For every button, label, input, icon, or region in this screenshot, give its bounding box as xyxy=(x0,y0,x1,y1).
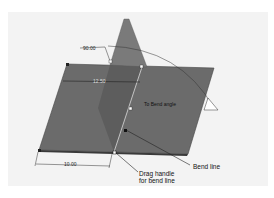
bottom-dimension-label[interactable]: 10.00 xyxy=(64,162,77,167)
drag-handle-callout-line2: for bend line xyxy=(139,177,175,184)
corner-handle-top-left[interactable] xyxy=(66,63,69,66)
bend-line-callout: Bend line xyxy=(193,163,220,170)
flange-upper xyxy=(110,19,147,67)
bend-line-marker[interactable] xyxy=(124,129,127,132)
mid-handle[interactable] xyxy=(129,107,132,110)
angle-arrow xyxy=(204,98,218,110)
inline-note-label: To Bend angle xyxy=(144,102,176,107)
offset-dimension-label[interactable]: 12.50 xyxy=(93,79,106,84)
sheet-metal-drawing xyxy=(0,0,274,198)
drag-handle-callout: Drag handle for bend line xyxy=(139,170,175,184)
angle-handle[interactable] xyxy=(109,60,112,63)
drag-handle-leader xyxy=(116,153,138,172)
corner-handle-bottom-left[interactable] xyxy=(38,149,41,152)
angle-dimension-label[interactable]: 90.00 xyxy=(83,46,96,51)
drag-handle-callout-line1: Drag handle xyxy=(139,170,175,177)
cad-canvas: 90.00 12.50 To Bend angle 10.00 Bend lin… xyxy=(0,0,274,198)
bend-top-handle[interactable] xyxy=(140,65,143,68)
drag-handle[interactable] xyxy=(113,151,116,154)
